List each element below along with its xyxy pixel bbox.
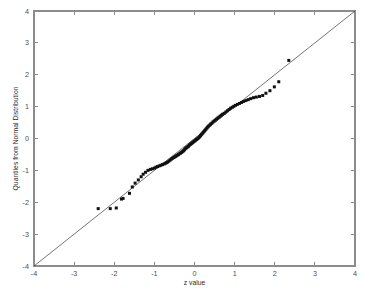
data-point-marker <box>128 192 131 195</box>
data-point-marker <box>277 80 280 83</box>
qq-plot-figure: -4-3-2-101234-4-3-2-101234 z value Quant… <box>0 0 366 293</box>
data-point-marker <box>273 85 276 88</box>
x-tick-label: 4 <box>353 269 357 278</box>
data-point-marker <box>258 95 261 98</box>
qq-plot-canvas: -4-3-2-101234-4-3-2-101234 z value Quant… <box>0 0 366 293</box>
x-axis-label: z value <box>184 279 206 286</box>
y-tick-label: 2 <box>25 70 29 79</box>
y-tick-label: 0 <box>25 134 29 143</box>
x-tick-label: 2 <box>273 269 277 278</box>
x-tick-label: -4 <box>31 269 37 278</box>
data-point-marker <box>131 185 134 188</box>
x-tick-label: -2 <box>111 269 117 278</box>
data-point-marker <box>252 96 255 99</box>
data-point-marker <box>287 59 290 62</box>
data-point-marker <box>109 207 112 210</box>
y-tick-label: 4 <box>25 7 29 16</box>
y-tick-label: -2 <box>23 198 29 207</box>
x-tick-label: 0 <box>193 269 197 278</box>
data-point-marker <box>97 207 100 210</box>
data-point-marker <box>268 89 271 92</box>
x-tick-label: 1 <box>233 269 237 278</box>
y-tick-label: 1 <box>25 102 29 111</box>
data-point-marker <box>264 92 267 95</box>
x-tick-label: -3 <box>71 269 77 278</box>
data-point-marker <box>261 94 264 97</box>
data-point-marker <box>134 182 137 185</box>
x-tick-label: 3 <box>313 269 317 278</box>
data-point-marker <box>115 206 118 209</box>
y-tick-label: -1 <box>23 166 29 175</box>
data-point-marker <box>249 97 252 100</box>
y-tick-label: -4 <box>23 262 29 271</box>
y-tick-label: 3 <box>25 38 29 47</box>
data-point-marker <box>255 96 258 99</box>
x-tick-label: -1 <box>151 269 157 278</box>
y-tick-label: -3 <box>23 230 29 239</box>
data-point-marker <box>122 197 125 200</box>
data-point-marker <box>137 178 140 181</box>
y-axis-label: Quantiles from Normal Distribution <box>12 86 20 190</box>
